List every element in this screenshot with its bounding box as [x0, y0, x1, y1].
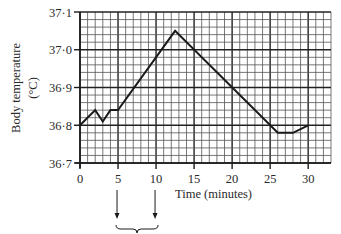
down-arrow-head-icon [115, 213, 120, 219]
x-tick-label: 0 [77, 172, 83, 186]
brace-icon [116, 225, 158, 233]
down-arrow-head-icon [153, 213, 158, 219]
x-tick-label: 30 [302, 172, 315, 186]
y-tick-label: 36·9 [49, 81, 72, 95]
x-tick-label: 5 [115, 172, 121, 186]
x-tick-label: 15 [188, 172, 201, 186]
x-tick-label: 10 [150, 172, 163, 186]
x-axis-title: Time (minutes) [175, 187, 252, 201]
y-axis-ticks: 36·736·836·937·037·1 [49, 6, 80, 171]
y-tick-label: 37·0 [49, 43, 72, 57]
x-axis-ticks: 051015202530 [77, 163, 315, 186]
y-axis-title-unit: (°C) [26, 77, 40, 99]
x-tick-label: 25 [264, 172, 277, 186]
temperature-chart: 36·736·836·937·037·1 051015202530 Time (… [0, 0, 341, 234]
y-tick-label: 37·1 [49, 6, 72, 20]
y-tick-label: 36·7 [49, 157, 72, 171]
chart-grid [80, 12, 331, 163]
y-tick-label: 36·8 [49, 119, 72, 133]
y-axis-title-main: Body temperature [9, 43, 23, 133]
y-axis-title: Body temperature (°C) [9, 43, 40, 133]
x-tick-label: 20 [226, 172, 239, 186]
chart-annotations [115, 190, 159, 233]
